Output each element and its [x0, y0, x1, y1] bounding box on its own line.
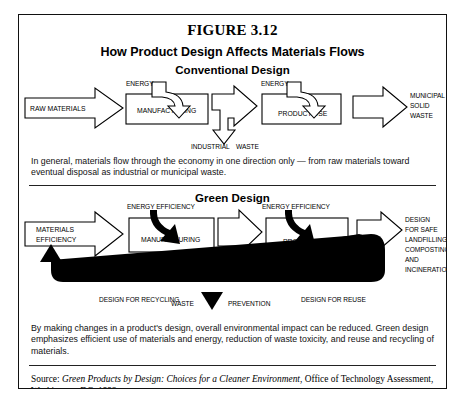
waste-label-green: WASTE [171, 300, 195, 307]
industrial-label: INDUSTRIAL [191, 143, 230, 150]
green-design-caption: By making changes in a product's design,… [31, 323, 434, 357]
industrial-waste-split-arrow [212, 86, 257, 144]
green-design-heading: Green Design [19, 192, 446, 204]
municipal-waste-label: WASTE [410, 112, 434, 119]
waste-prevention-arrowhead [201, 292, 223, 310]
outcome-label-4: COMPOSTING, [405, 246, 447, 253]
waste-label: WASTE [236, 143, 260, 150]
conventional-design-heading: Conventional Design [19, 64, 446, 76]
raw-materials-label: RAW MATERIALS [30, 105, 86, 112]
solid-label: SOLID [410, 102, 430, 109]
design-for-recycling-arrowhead [40, 244, 62, 262]
conventional-design-caption: In general, materials flow through the e… [31, 156, 434, 179]
outcome-label-1: DESIGN [405, 216, 430, 223]
municipal-label: MUNICIPAL [410, 92, 445, 99]
source-line: Source: Green Products by Design: Choice… [31, 373, 434, 389]
outcome-label-6: INCINERATION [405, 266, 447, 273]
outcome-label-3: LANDFILLING, [405, 236, 447, 243]
conventional-design-diagram: RAW MATERIALS MANUFACTURING ENERGY INDUS… [19, 76, 447, 154]
prevention-label: PREVENTION [228, 300, 271, 307]
design-for-reuse-label: DESIGN FOR REUSE [301, 296, 366, 303]
green-design-diagram: MATERIALS EFFICIENCY MANUFACTURING ENERG… [19, 204, 447, 322]
product-use-box [262, 94, 341, 124]
materials-efficiency-label-2: EFFICIENCY [36, 236, 77, 243]
outcome-label-5: AND [405, 256, 419, 263]
design-for-recycling-label: DESIGN FOR RECYCLING [99, 296, 179, 303]
source-title: Green Products by Design: Choices for a … [62, 374, 300, 384]
figure-panel: FIGURE 3.12 How Product Design Affects M… [18, 14, 447, 389]
energy-efficiency-label-2: ENERGY EFFICIENCY [262, 204, 331, 210]
energy-label-1: ENERGY [126, 80, 154, 87]
source-divider [29, 365, 436, 366]
section-divider [29, 185, 436, 186]
energy-label-2: ENERGY [261, 80, 289, 87]
outcome-label-2: FOR SAFE [405, 226, 438, 233]
materials-efficiency-label-1: MATERIALS [36, 226, 74, 233]
materials-efficiency-arrow [25, 212, 123, 256]
municipal-waste-arrow [353, 87, 407, 127]
figure-subtitle: How Product Design Affects Materials Flo… [19, 45, 446, 59]
source-prefix: Source: [31, 374, 62, 384]
energy-efficiency-label-1: ENERGY EFFICIENCY [127, 204, 196, 210]
figure-number-title: FIGURE 3.12 [19, 22, 446, 39]
